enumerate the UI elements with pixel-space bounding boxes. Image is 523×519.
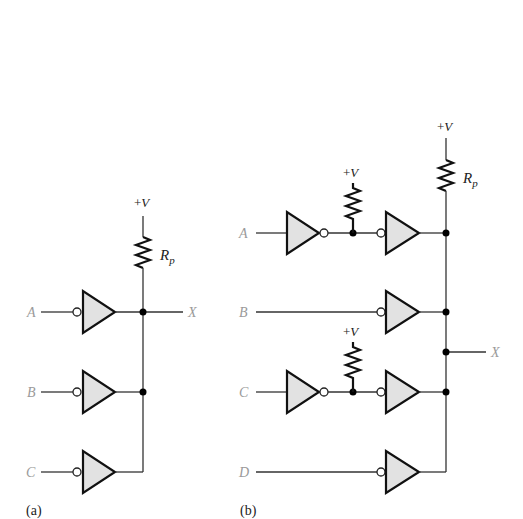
local-pullup-resistor-A: [346, 183, 360, 233]
caption-b: (b): [240, 503, 257, 519]
input-label-a-C: C: [26, 465, 36, 480]
junction-dot: [443, 309, 450, 316]
local-supply-label-C: +V: [343, 324, 360, 339]
output-label-b: X: [490, 345, 500, 360]
resistor-label-a: Rp: [159, 247, 175, 266]
junction-dot: [140, 389, 147, 396]
logic-diagram: +V Rp A X B C (a) +V Rp: [0, 0, 523, 519]
output-label-a: X: [187, 305, 197, 320]
buffer-gate-a2: [83, 371, 115, 413]
junction-dot: [140, 309, 147, 316]
buffer-gate-b3: [386, 371, 419, 413]
buffer-gate-b2: [386, 291, 419, 333]
resistor-label-b: Rp: [462, 170, 478, 189]
input-label-a-A: A: [26, 305, 36, 320]
inversion-bubble: [377, 308, 385, 316]
inversion-bubble: [377, 229, 385, 237]
panel-b: +V Rp A +V B X C +: [238, 119, 500, 519]
pullup-resistor-b: [439, 160, 453, 191]
inversion-bubble: [320, 388, 328, 396]
buffer-gate-b1: [386, 212, 419, 254]
pullup-resistor-a: [136, 237, 150, 268]
inversion-bubble: [377, 388, 385, 396]
inversion-bubble: [73, 308, 81, 316]
caption-a: (a): [26, 503, 42, 519]
input-label-b-C: C: [239, 385, 249, 400]
local-pullup-resistor-C: [346, 342, 360, 392]
input-label-b-D: D: [238, 465, 249, 480]
inverter-gate-b1: [287, 212, 319, 254]
inversion-bubble: [320, 229, 328, 237]
inversion-bubble: [73, 468, 81, 476]
input-label-b-B: B: [239, 305, 248, 320]
junction-dot: [443, 230, 450, 237]
inverter-gate-b3: [287, 371, 319, 413]
panel-a: +V Rp A X B C (a): [26, 195, 197, 519]
inversion-bubble: [377, 468, 385, 476]
buffer-gate-a1: [83, 291, 115, 333]
junction-dot: [443, 349, 450, 356]
input-label-b-A: A: [238, 226, 248, 241]
junction-dot: [443, 389, 450, 396]
supply-label-b: +V: [437, 119, 454, 134]
buffer-gate-b4: [386, 451, 419, 493]
local-supply-label-A: +V: [343, 165, 360, 180]
supply-label-a: +V: [134, 195, 151, 210]
buffer-gate-a3: [83, 451, 115, 493]
inversion-bubble: [73, 388, 81, 396]
input-label-a-B: B: [27, 385, 36, 400]
